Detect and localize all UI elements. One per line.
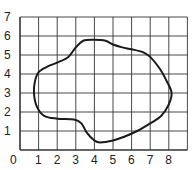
y-tick-label: 5 xyxy=(4,48,11,62)
y-tick-label: 1 xyxy=(4,124,11,138)
x-tick-label: 0 xyxy=(10,153,17,167)
grid-diagram: 0123456781234567 xyxy=(0,0,194,170)
grid-lines xyxy=(20,17,187,150)
axis-labels: 0123456781234567 xyxy=(4,10,172,167)
x-tick-label: 2 xyxy=(54,153,61,167)
x-tick-label: 5 xyxy=(110,153,117,167)
y-tick-label: 6 xyxy=(4,29,11,43)
x-tick-label: 8 xyxy=(165,153,172,167)
y-tick-label: 4 xyxy=(4,67,11,81)
y-tick-label: 2 xyxy=(4,105,11,119)
x-tick-label: 1 xyxy=(35,153,42,167)
x-tick-label: 6 xyxy=(128,153,135,167)
y-tick-label: 3 xyxy=(4,86,11,100)
x-tick-label: 4 xyxy=(91,153,98,167)
x-tick-label: 3 xyxy=(72,153,79,167)
x-tick-label: 7 xyxy=(147,153,154,167)
y-tick-label: 7 xyxy=(4,10,11,24)
